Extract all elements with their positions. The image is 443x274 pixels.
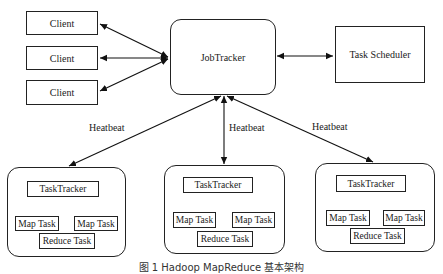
reduce-task-label: Reduce Task (201, 234, 250, 244)
client-box-1: Client (26, 11, 98, 35)
jobtracker-label: JobTracker (201, 52, 246, 63)
node-2-reduce-task: Reduce Task (197, 231, 253, 247)
reduce-task-label: Reduce Task (43, 236, 92, 246)
client-box-3: Client (26, 80, 98, 105)
map-task-label: Map Task (329, 213, 366, 223)
node-1-tasktracker-box: TaskTracker (27, 181, 99, 197)
node-3-map-task-2: Map Task (383, 210, 425, 226)
map-task-label: Map Task (176, 215, 213, 225)
heartbeat-label-right: Heatbeat (312, 121, 348, 132)
client-label: Client (50, 18, 74, 29)
client-3-jobtracker-arrow (100, 59, 168, 91)
jobtracker-box: JobTracker (170, 19, 276, 95)
map-task-label: Map Task (77, 219, 114, 229)
node-3-reduce-task: Reduce Task (350, 228, 405, 244)
node-2-map-task-1: Map Task (173, 212, 216, 228)
map-task-label: Map Task (18, 219, 55, 229)
node-1-map-task-2: Map Task (74, 216, 118, 231)
map-task-label: Map Task (385, 213, 422, 223)
client-label: Client (50, 87, 74, 98)
reduce-task-label: Reduce Task (353, 231, 402, 241)
node-2-tasktracker-box: TaskTracker (183, 177, 253, 193)
heartbeat-label-middle: Heatbeat (229, 122, 265, 133)
node-1-map-task-1: Map Task (15, 216, 59, 231)
node-1-reduce-task: Reduce Task (39, 233, 95, 249)
node-3-map-task-1: Map Task (326, 210, 370, 226)
client-label: Client (50, 53, 74, 64)
task-scheduler-box: Task Scheduler (335, 26, 425, 83)
figure-caption: 图 1 Hadoop MapReduce 基本架构 (0, 259, 443, 274)
task-scheduler-label: Task Scheduler (349, 49, 410, 60)
map-task-label: Map Task (235, 215, 272, 225)
node-2-map-task-2: Map Task (232, 212, 275, 228)
node-3-tasktracker-box: TaskTracker (336, 175, 406, 192)
client-box-2: Client (26, 46, 98, 70)
client-1-jobtracker-arrow (100, 24, 168, 57)
tasktracker-label: TaskTracker (40, 184, 87, 194)
tasktracker-label: TaskTracker (348, 179, 395, 189)
heartbeat-label-left: Heatbeat (89, 122, 125, 133)
tasktracker-label: TaskTracker (195, 180, 242, 190)
